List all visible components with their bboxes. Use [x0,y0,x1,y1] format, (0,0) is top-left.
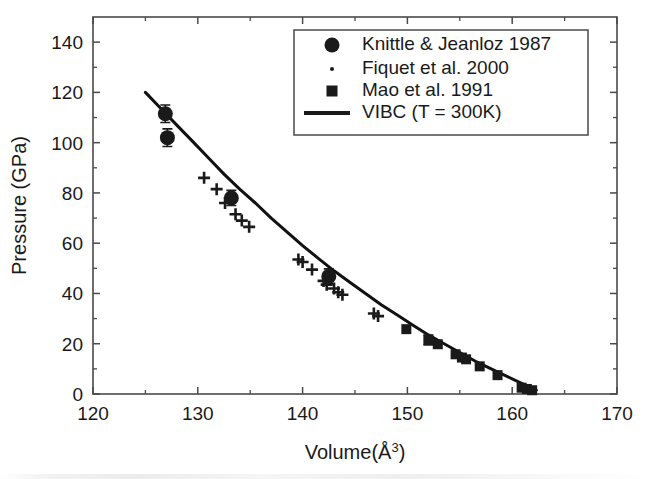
legend-label: Knittle & Jeanloz 1987 [362,33,551,54]
legend-label: Mao et al. 1991 [362,79,493,100]
data-point-plus [236,215,248,227]
data-point-square [433,339,443,349]
vibc-model-curve [145,92,536,390]
y-axis-label: Pressure (GPa) [8,136,30,275]
y-tick-label: 100 [51,133,83,154]
data-point-plus [243,221,255,233]
data-point-square [401,324,411,334]
data-point-plus [306,264,318,276]
data-point-square [475,361,485,371]
x-tick-label: 130 [182,403,214,424]
x-tick-label: 170 [601,403,633,424]
legend-marker-square [327,86,338,97]
x-tick-label: 150 [392,403,424,424]
y-tick-label: 140 [51,32,83,53]
y-tick-label: 80 [62,183,83,204]
x-tick-label: 160 [496,403,528,424]
legend-label: Fiquet et al. 2000 [362,57,509,78]
data-point-circle [160,130,175,145]
scan-edge-artifact [0,474,649,479]
chart-figure: 120130140150160170020406080100120140Volu… [0,0,649,479]
y-tick-label: 20 [62,334,83,355]
data-point-square [423,335,433,345]
legend-marker-circle [325,38,340,53]
data-point-circle [158,106,173,121]
pressure-volume-plot: 120130140150160170020406080100120140Volu… [0,0,649,479]
y-tick-label: 120 [51,82,83,103]
y-tick-label: 40 [62,283,83,304]
x-tick-label: 120 [77,403,109,424]
data-point-plus [211,183,223,195]
data-point-square [493,370,503,380]
x-axis-label: Volume(Å3) [305,440,406,464]
data-point-plus [198,172,210,184]
series-2 [401,324,537,395]
y-tick-label: 0 [72,384,83,405]
legend-label: VIBC (T = 300K) [362,101,502,122]
data-point-plus [230,208,242,220]
legend-marker-dot [330,67,334,71]
data-point-square [527,385,537,395]
x-tick-label: 140 [287,403,319,424]
y-tick-label: 60 [62,233,83,254]
data-point-square [461,354,471,364]
